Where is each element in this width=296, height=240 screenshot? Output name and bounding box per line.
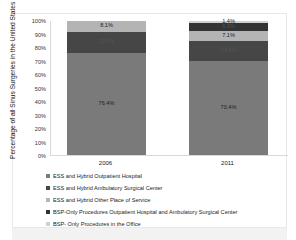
y-tick-label: 10% [35,140,46,146]
y-tick-label: 70% [35,59,46,65]
data-label: 6.3% [189,24,268,30]
bar-segment: 14.8% [189,41,268,61]
bar-2011: 70.4%14.8%7.1%6.3%1.4% [189,21,268,155]
bar-segment: 76.4% [67,53,146,155]
legend-swatch-icon [46,174,50,178]
data-label: 8.1% [67,24,146,30]
legend-item: BSP-Only Procedures Outpatient Hospital … [46,206,237,218]
y-tick-label: 20% [35,126,46,132]
bar-segment: 15.5% [67,32,146,53]
y-tick-label: 50% [35,86,46,92]
y-tick-label: 90% [35,32,46,38]
bar-segment: 1.4% [189,21,268,23]
legend-item: ESS and Hybrid Outpatient Hospital [46,170,237,182]
legend-swatch-icon [46,186,50,190]
legend-label: BSP-Only Procedures Outpatient Hospital … [53,209,237,215]
data-label: 1.4% [189,19,268,25]
legend-item: ESS and Hybrid Ambulatory Surgical Cente… [46,182,237,194]
y-tick-label: 100% [32,18,46,24]
legend-swatch-icon [46,222,50,226]
legend-item: ESS and Hybrid Other Place of Service [46,194,237,206]
legend-swatch-icon [46,198,50,202]
y-tick-label: 30% [35,113,46,119]
y-tick-label: 0% [38,153,46,159]
y-tick-label: 80% [35,45,46,51]
data-label: 7.1% [189,33,268,39]
plot-area: 76.4%15.5%8.1%70.4%14.8%7.1%6.3%1.4% [50,21,288,156]
data-label: 70.4% [189,105,268,111]
data-label: 14.8% [189,48,268,54]
legend: ESS and Hybrid Outpatient HospitalESS an… [46,170,237,230]
legend-label: ESS and Hybrid Ambulatory Surgical Cente… [53,185,162,191]
legend-label: ESS and Hybrid Outpatient Hospital [53,173,142,179]
y-axis-title: Percentage of all Sinus Surgeries in the… [9,7,19,159]
legend-label: BSP- Only Procedures in the Office [53,221,141,227]
y-axis-ticks: 0%10%20%30%40%50%60%70%80%90%100% [28,0,46,240]
legend-swatch-icon [46,210,50,214]
x-tick-label: 2011 [188,160,267,166]
bar-segment: 70.4% [189,61,268,155]
data-label: 76.4% [67,101,146,107]
bar-2006: 76.4%15.5%8.1% [67,21,146,155]
legend-item: BSP- Only Procedures in the Office [46,218,237,230]
y-tick-label: 40% [35,99,46,105]
legend-label: ESS and Hybrid Other Place of Service [53,197,150,203]
data-label: 15.5% [67,39,146,45]
bar-segment: 7.1% [189,31,268,41]
bar-segment: 8.1% [67,21,146,32]
y-tick-label: 60% [35,72,46,78]
x-tick-label: 2006 [66,160,145,166]
